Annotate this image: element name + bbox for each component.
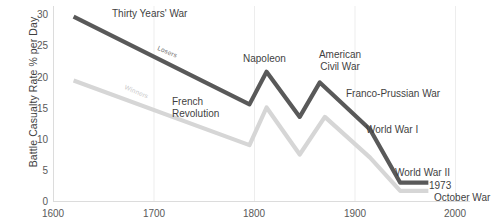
annotation-october-war: 1973 October War xyxy=(429,180,490,203)
y-tick-5: 5 xyxy=(22,165,48,176)
annotation-thirty-years-war: Thirty Years' War xyxy=(112,8,187,20)
annotation-french-revolution-line2: Revolution xyxy=(172,108,232,120)
annotation-french-revolution-line1: French xyxy=(172,96,232,108)
annotation-american-civil-war-line2: Civil War xyxy=(309,61,371,73)
x-tick-2000: 2000 xyxy=(432,208,478,219)
annotation-american-civil-war: American Civil War xyxy=(309,49,371,72)
x-tick-1700: 1700 xyxy=(131,208,177,219)
x-tick-1800: 1800 xyxy=(231,208,277,219)
annotation-napoleon: Napoleon xyxy=(243,53,286,65)
annotation-october-war-line2: October War xyxy=(434,192,490,204)
y-tick-20: 20 xyxy=(22,72,48,83)
annotation-french-revolution: French Revolution xyxy=(172,96,232,119)
annotation-october-war-line1: 1973 xyxy=(429,180,490,192)
y-tick-30: 30 xyxy=(22,9,48,20)
y-tick-0: 0 xyxy=(22,196,48,207)
annotation-world-war-i: World War I xyxy=(366,124,418,136)
y-tick-25: 25 xyxy=(22,40,48,51)
chart-container: Battle Casualty Rate % per Day 30 25 20 … xyxy=(0,0,492,224)
annotation-american-civil-war-line1: American xyxy=(309,49,371,61)
chart-plot-area xyxy=(0,0,492,224)
y-axis-title: Battle Casualty Rate % per Day xyxy=(27,0,39,187)
annotation-franco-prussian-war: Franco-Prussian War xyxy=(346,88,440,100)
x-tick-1600: 1600 xyxy=(30,208,76,219)
x-tick-1900: 1900 xyxy=(332,208,378,219)
y-tick-15: 15 xyxy=(22,103,48,114)
y-tick-10: 10 xyxy=(22,134,48,145)
annotation-world-war-ii: World War II xyxy=(395,167,450,179)
